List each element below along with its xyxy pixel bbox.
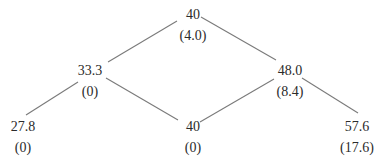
tree-node-up-down: 40 (0) — [158, 118, 228, 157]
node-value: 33.3 — [55, 62, 125, 80]
tree-node-down: 33.3 (0) — [55, 62, 125, 101]
tree-node-root: 40 (4.0) — [158, 6, 228, 45]
node-subvalue: (0) — [158, 139, 228, 157]
tree-node-up-up: 57.6 (17.6) — [322, 118, 384, 157]
node-value: 27.8 — [0, 118, 58, 136]
node-value: 40 — [158, 6, 228, 24]
node-value: 48.0 — [255, 62, 325, 80]
node-subvalue: (0) — [0, 139, 58, 157]
node-subvalue: (0) — [55, 83, 125, 101]
node-subvalue: (17.6) — [322, 139, 384, 157]
node-subvalue: (8.4) — [255, 83, 325, 101]
node-value: 40 — [158, 118, 228, 136]
node-value: 57.6 — [322, 118, 384, 136]
tree-node-up: 48.0 (8.4) — [255, 62, 325, 101]
tree-node-down-down: 27.8 (0) — [0, 118, 58, 157]
node-subvalue: (4.0) — [158, 27, 228, 45]
